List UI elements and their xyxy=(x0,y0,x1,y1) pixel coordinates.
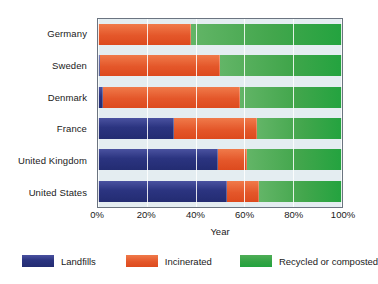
bar-segment-recycled-or-composted xyxy=(259,181,342,202)
bar-segment-recycled-or-composted xyxy=(257,118,342,139)
category-label-text: France xyxy=(57,123,87,134)
category-label-united-states: United States xyxy=(0,176,93,208)
legend-swatch-icon xyxy=(22,255,54,267)
x-axis-title: Year xyxy=(97,226,343,237)
bar-segment-landfills xyxy=(98,149,218,170)
stacked-bar xyxy=(98,149,342,170)
bar-row xyxy=(98,19,342,50)
x-tick-label: 80% xyxy=(284,209,303,220)
bar-segment-incinerated xyxy=(174,118,257,139)
bar-segment-recycled-or-composted xyxy=(220,55,342,76)
legend-label: Recycled or composted xyxy=(279,256,378,267)
category-label-text: United Kingdom xyxy=(18,155,87,166)
x-tick-label: 0% xyxy=(90,209,104,220)
category-label-france: France xyxy=(0,113,93,145)
legend-label: Landfills xyxy=(61,256,96,267)
x-tick-label: 60% xyxy=(235,209,254,220)
bar-segment-landfills xyxy=(98,181,227,202)
stacked-bar xyxy=(98,87,342,108)
legend-swatch-icon xyxy=(240,255,272,267)
legend-label: Incinerated xyxy=(165,256,212,267)
legend-item-incinerated[interactable]: Incinerated xyxy=(126,255,212,267)
bar-segment-landfills xyxy=(98,118,174,139)
x-axis-tick-labels: 0%20%40%60%80%100% xyxy=(97,209,343,223)
bar-row xyxy=(98,50,342,81)
bar-row xyxy=(98,113,342,144)
bar-segment-incinerated xyxy=(100,55,220,76)
bar-segment-incinerated xyxy=(227,181,259,202)
category-label-germany: Germany xyxy=(0,18,93,50)
stacked-bar xyxy=(98,55,342,76)
category-label-sweden: Sweden xyxy=(0,50,93,82)
stacked-bar xyxy=(98,24,342,45)
category-label-denmark: Denmark xyxy=(0,81,93,113)
x-tick-label: 100% xyxy=(331,209,355,220)
legend-item-landfills[interactable]: Landfills xyxy=(22,255,96,267)
category-label-text: Denmark xyxy=(48,92,87,103)
chart-legend: LandfillsIncineratedRecycled or composte… xyxy=(22,252,358,270)
legend-swatch-icon xyxy=(126,255,158,267)
category-label-united-kingdom: United Kingdom xyxy=(0,145,93,177)
bar-row xyxy=(98,82,342,113)
category-label-text: United States xyxy=(29,187,87,198)
bar-row xyxy=(98,176,342,207)
category-label-text: Germany xyxy=(47,28,87,39)
x-tick-label: 40% xyxy=(186,209,205,220)
bar-segment-recycled-or-composted xyxy=(191,24,342,45)
x-tick-label: 20% xyxy=(137,209,156,220)
bar-segment-incinerated xyxy=(218,149,247,170)
bar-segment-recycled-or-composted xyxy=(240,87,342,108)
stacked-bar xyxy=(98,181,342,202)
plot-area xyxy=(97,18,343,208)
category-axis-labels: GermanySwedenDenmarkFranceUnited Kingdom… xyxy=(0,18,93,208)
bar-rows xyxy=(98,19,342,207)
bar-segment-incinerated xyxy=(98,24,191,45)
legend-item-recycled-or-composted[interactable]: Recycled or composted xyxy=(240,255,378,267)
bar-segment-incinerated xyxy=(103,87,240,108)
category-label-text: Sweden xyxy=(52,60,87,71)
bar-row xyxy=(98,144,342,175)
stacked-bar xyxy=(98,118,342,139)
bar-segment-recycled-or-composted xyxy=(247,149,342,170)
